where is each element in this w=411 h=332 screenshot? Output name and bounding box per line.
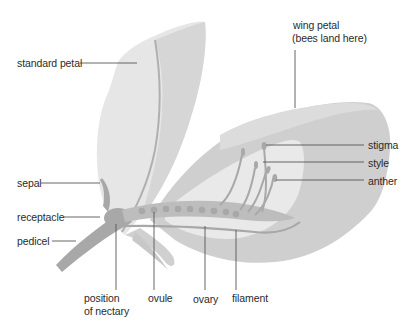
label-receptacle: receptacle xyxy=(17,211,64,223)
label-pedicel: pedicel xyxy=(17,235,50,247)
label-wing-petal-line1: wing petal xyxy=(293,19,339,31)
label-ovary: ovary xyxy=(193,293,218,305)
label-ovule: ovule xyxy=(148,292,173,304)
stigma-shape xyxy=(262,142,267,150)
label-wing-petal-line2: (bees land here) xyxy=(292,32,367,44)
label-anther: anther xyxy=(368,175,397,187)
label-sepal: sepal xyxy=(17,177,42,189)
label-standard-petal: standard petal xyxy=(17,57,82,69)
label-nectary-line1: position xyxy=(84,292,119,304)
label-nectary-line2: of nectary xyxy=(84,305,129,317)
label-stigma: stigma xyxy=(368,139,398,151)
flower-diagram xyxy=(0,0,411,332)
label-style: style xyxy=(368,157,389,169)
label-filament: filament xyxy=(232,292,268,304)
